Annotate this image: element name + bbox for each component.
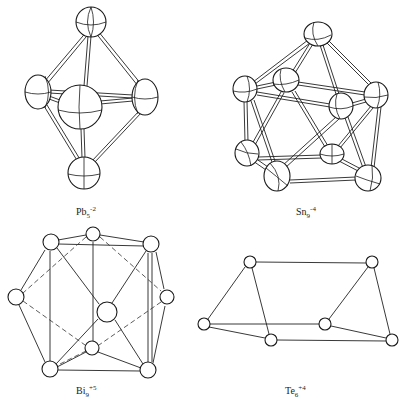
sn9-atom-lower-middle	[320, 144, 344, 164]
bi9-label-subscript: 9	[85, 391, 89, 399]
pb5-atom-top	[76, 7, 106, 37]
sn9-structure	[233, 22, 388, 191]
pb5-label: Pb5-2	[76, 205, 96, 220]
sn9-label-charge: -4	[310, 205, 316, 213]
pb5-structure	[25, 7, 158, 189]
te6-atom-upper-left	[244, 256, 256, 268]
bi9-label: Bi9+5	[76, 384, 96, 399]
bi9-atom-lower-center	[85, 341, 99, 355]
sn9-atom-left	[233, 76, 257, 102]
pb5-atom-center	[58, 85, 102, 129]
bi9-atom-right	[160, 290, 174, 304]
te6-atom-lower-left	[265, 334, 277, 346]
te6-label: Te6+4	[285, 384, 306, 399]
bi9-label-charge: +5	[89, 384, 96, 392]
pb5-atom-right	[132, 79, 158, 115]
pb5-label-subscript: 5	[87, 212, 91, 220]
te6-bonds	[208, 262, 390, 341]
sn9-label-subscript: 9	[307, 212, 311, 220]
sn9-atom-top	[304, 22, 332, 46]
pb5-atom-left	[25, 75, 51, 109]
te6-label-charge: +4	[298, 384, 305, 392]
te6-atom-middle	[319, 318, 331, 330]
te6-atom-upper-right	[366, 256, 378, 268]
sn9-atom-center-right	[329, 93, 353, 119]
sn9-atom-bottom-right	[355, 165, 381, 191]
cluster-structures-figure	[0, 0, 404, 404]
pb5-label-charge: -2	[90, 205, 96, 213]
pb5-label-element: Pb	[76, 206, 87, 217]
pb5-atom-bottom	[68, 157, 100, 189]
bi9-atom-bottom-left	[42, 361, 58, 377]
sn9-atom-right	[364, 82, 388, 108]
bi9-atom-left	[8, 289, 24, 305]
sn9-label-element: Sn	[296, 206, 307, 217]
bi9-atom-center	[97, 302, 117, 322]
sn9-label: Sn9-4	[296, 205, 316, 220]
te6-label-element: Te	[285, 385, 295, 396]
sn9-atom-lower-left	[235, 140, 259, 166]
bi9-atom-top	[86, 227, 100, 241]
te6-structure	[198, 256, 398, 346]
sn9-bonds	[244, 40, 381, 183]
bi9-atom-bottom-right	[140, 362, 156, 378]
te6-atom-left	[198, 318, 210, 330]
bi9-structure	[8, 227, 174, 378]
bi9-atom-upper-right	[143, 236, 159, 252]
sn9-atom-upper-middle	[273, 68, 299, 92]
sn9-atom-bottom-left	[264, 161, 290, 191]
bi9-atom-upper-left	[43, 234, 59, 250]
te6-label-subscript: 6	[295, 391, 299, 399]
te6-atom-lower-right	[386, 334, 398, 346]
